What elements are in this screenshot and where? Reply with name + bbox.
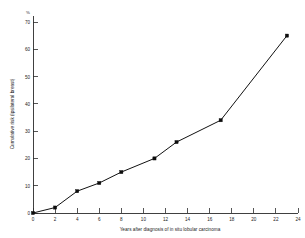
x-tick-label: 12 bbox=[163, 217, 169, 222]
y-tick-label: 70 bbox=[25, 20, 31, 25]
x-axis-tick-labels: 0 2 4 6 8 10 12 14 16 18 20 22 24 bbox=[32, 217, 301, 222]
x-axis-ticks bbox=[33, 208, 298, 213]
y-axis-unit-label: % bbox=[26, 10, 30, 15]
y-tick-label: 40 bbox=[25, 102, 31, 107]
y-axis-ticks bbox=[33, 22, 38, 213]
y-tick-label: 60 bbox=[25, 47, 31, 52]
series-markers bbox=[31, 34, 288, 215]
x-tick-label: 8 bbox=[120, 217, 123, 222]
y-tick-label: 50 bbox=[25, 75, 31, 80]
x-tick-label: 6 bbox=[98, 217, 101, 222]
x-tick-label: 4 bbox=[76, 217, 79, 222]
x-axis-title: Years after diagnosis of in situ lobular… bbox=[120, 227, 221, 232]
x-tick-label: 24 bbox=[295, 217, 301, 222]
data-point bbox=[76, 190, 79, 193]
data-point bbox=[120, 170, 123, 173]
data-point bbox=[219, 119, 222, 122]
x-tick-label: 22 bbox=[273, 217, 279, 222]
y-axis-tick-labels: 0 10 20 30 40 50 60 70 bbox=[25, 20, 31, 216]
x-tick-label: 10 bbox=[141, 217, 147, 222]
chart-figure: 0 10 20 30 40 50 60 70 % bbox=[0, 0, 305, 238]
data-point bbox=[98, 181, 101, 184]
y-tick-label: 20 bbox=[25, 156, 31, 161]
x-tick-label: 20 bbox=[251, 217, 257, 222]
data-point bbox=[285, 34, 288, 37]
line-chart: 0 10 20 30 40 50 60 70 % bbox=[0, 0, 305, 238]
y-axis-title: Cumulative risk (ipsilateral breast) bbox=[10, 78, 15, 149]
data-point bbox=[175, 140, 178, 143]
series-line bbox=[33, 36, 287, 213]
data-point bbox=[31, 211, 34, 214]
x-tick-label: 2 bbox=[54, 217, 57, 222]
y-tick-label: 10 bbox=[25, 184, 31, 189]
data-point bbox=[153, 157, 156, 160]
data-point bbox=[53, 206, 56, 209]
x-tick-label: 0 bbox=[32, 217, 35, 222]
y-tick-label: 0 bbox=[27, 211, 30, 216]
x-tick-label: 16 bbox=[207, 217, 213, 222]
x-tick-label: 14 bbox=[185, 217, 191, 222]
y-tick-label: 30 bbox=[25, 129, 31, 134]
x-tick-label: 18 bbox=[229, 217, 235, 222]
